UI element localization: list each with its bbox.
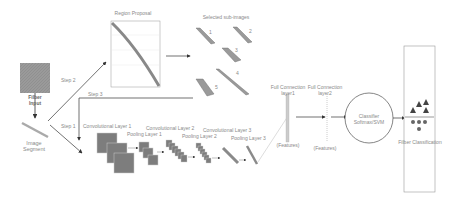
subimage-number-2: 2 xyxy=(249,28,252,34)
image-segment-label: ImageSegment xyxy=(23,140,45,152)
fc1-features-label: (Features) xyxy=(276,142,299,148)
conv-layer-2-label: Convolutional Layer 2 xyxy=(146,125,194,131)
output-panel xyxy=(404,46,435,192)
diagram-canvas xyxy=(0,0,459,198)
sub-images xyxy=(196,27,252,96)
conv-layer-1-label: Convolutional Layer 1 xyxy=(83,123,131,129)
subimage-number-1: 1 xyxy=(209,29,212,35)
pool-layer-2-label: Pooling Layer 2 xyxy=(182,133,217,139)
filter-input-label: FilberInput xyxy=(28,94,42,106)
step-2-label: Step 2 xyxy=(61,77,75,83)
output-label: Filber Classification xyxy=(398,139,441,145)
fc1-column xyxy=(286,94,289,142)
pool-layer-3-shape xyxy=(247,146,257,164)
fc2-label: Full Connectionlayer2 xyxy=(308,84,343,96)
step-1-label: Step 1 xyxy=(61,123,75,129)
pool-layer-2-blocks xyxy=(196,143,211,163)
image-segment-shape xyxy=(22,123,48,137)
conv-layer-1-blocks xyxy=(97,133,134,173)
pool-layer-1-label: Pooling Layer 1 xyxy=(127,131,162,137)
conv-layer-3-shape xyxy=(223,148,238,163)
subimage-number-4: 4 xyxy=(236,70,239,76)
pool-layer-3-label: Pooling Layer 3 xyxy=(231,135,266,141)
selected-subimages-label: Selected sub-images xyxy=(203,14,250,20)
region-proposal-label: Region Proposal xyxy=(115,10,152,16)
subimage-number-3: 3 xyxy=(235,47,238,53)
step-3-label: Step 3 xyxy=(88,91,102,97)
pool-layer-1-blocks xyxy=(139,142,158,165)
conv-layer-2-blocks xyxy=(166,140,187,162)
subimage-number-5: 5 xyxy=(215,84,218,90)
classifier-label: ClassifierSoftmax/SVM xyxy=(354,113,385,125)
filter-input-image xyxy=(20,63,50,93)
fc1-label: Full Connectionlayer1 xyxy=(271,84,306,96)
conv-layer-3-label: Convolutional Layer 3 xyxy=(203,127,251,133)
fc2-features-label: (Features) xyxy=(313,145,336,151)
